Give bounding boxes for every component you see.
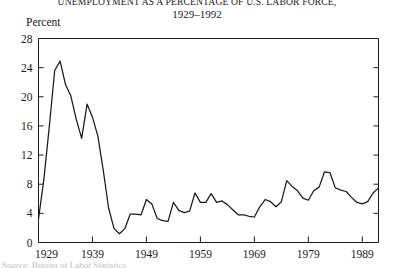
svg-text:1939: 1939 — [81, 248, 104, 260]
svg-text:24: 24 — [21, 62, 33, 74]
svg-text:1959: 1959 — [189, 248, 212, 260]
svg-text:1989: 1989 — [351, 248, 374, 260]
svg-text:8: 8 — [27, 178, 33, 190]
y-axis-ticks: 0481216202428 — [21, 33, 379, 249]
plot-frame — [39, 39, 379, 243]
plot-area: 0481216202428 19291939194919591969197919… — [0, 0, 394, 268]
svg-text:0: 0 — [27, 237, 33, 249]
svg-text:20: 20 — [21, 91, 33, 103]
svg-text:1949: 1949 — [135, 248, 158, 260]
data-series-group — [39, 61, 379, 234]
source-note: Source: Bureau of Labor Statistics — [2, 260, 126, 268]
data-line-unemployment-rate — [39, 61, 379, 234]
svg-text:28: 28 — [21, 33, 33, 45]
unemployment-chart-figure: Unemployment as a Percentage of U.S. Lab… — [0, 0, 394, 268]
svg-text:12: 12 — [21, 149, 33, 161]
svg-text:16: 16 — [21, 120, 33, 132]
svg-text:1929: 1929 — [35, 248, 58, 260]
x-axis-ticks: 1929193919491959196919791989 — [35, 237, 374, 260]
svg-text:1979: 1979 — [297, 248, 320, 260]
svg-text:1969: 1969 — [243, 248, 266, 260]
svg-text:4: 4 — [27, 207, 33, 219]
